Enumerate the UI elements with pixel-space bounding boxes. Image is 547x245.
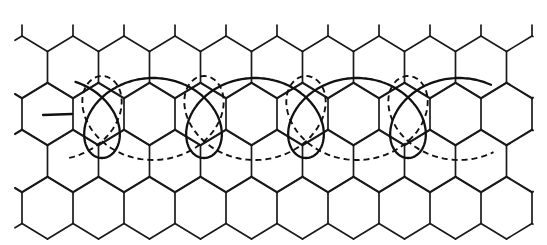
lattice-edge — [124, 83, 150, 99]
lattice-edge — [73, 177, 99, 193]
lattice-edge — [481, 130, 507, 146]
lattice-edge — [405, 177, 431, 193]
lattice-edge — [124, 130, 150, 146]
lattice-edge — [150, 224, 176, 240]
lattice-edge — [507, 36, 533, 52]
lattice-edge — [430, 177, 456, 193]
lattice-edge — [354, 130, 380, 146]
lattice-edge — [303, 36, 329, 52]
lattice-edge — [456, 83, 482, 99]
lattice-edge — [201, 177, 227, 193]
lattice-edge — [48, 224, 74, 240]
solid-curve-stub — [43, 114, 72, 115]
lattice-edge — [532, 224, 533, 225]
lattice-edge — [150, 36, 176, 52]
hexagonal-lattice-figure: Hexagonal (honeycomb) lattice with two o… — [0, 0, 547, 245]
lattice-edge — [124, 36, 150, 52]
lattice-edge — [226, 83, 252, 99]
lattice-edge — [430, 36, 456, 52]
lattice-edge — [124, 177, 150, 193]
lattice-edge — [532, 98, 533, 99]
lattice-edge — [277, 224, 303, 240]
lattice-edge — [430, 224, 456, 240]
lattice-edge — [252, 83, 278, 99]
lattice-edge — [354, 36, 380, 52]
lattice-edge — [73, 224, 99, 240]
lattice-edge — [456, 177, 482, 193]
lattice-edge — [150, 130, 176, 146]
lattice-edge — [456, 130, 482, 146]
lattice-edge — [379, 36, 405, 52]
lattice-edge — [328, 36, 354, 52]
lattice-edge — [99, 177, 125, 193]
lattice-edge — [150, 177, 176, 193]
lattice-edge — [507, 130, 533, 146]
lattice-edge — [252, 130, 278, 146]
lattice-edge — [379, 177, 405, 193]
lattice-edge — [48, 83, 74, 99]
lattice-edge — [277, 36, 303, 52]
lattice-edge — [226, 36, 252, 52]
lattice-edge — [15, 36, 22, 40]
lattice-edge — [328, 224, 354, 240]
lattice-edge — [252, 224, 278, 240]
lattice-edge — [405, 224, 431, 240]
lattice-edge — [175, 36, 201, 52]
figure-canvas — [0, 0, 547, 245]
lattice-edge — [226, 177, 252, 193]
lattice-edge — [430, 83, 456, 99]
lattice-edge — [73, 36, 99, 52]
lattice-edge — [354, 177, 380, 193]
lattice-edge — [22, 130, 48, 146]
lattice-edge — [48, 36, 74, 52]
lattice-edge — [430, 130, 456, 146]
lattice-edge — [175, 224, 201, 240]
lattice-edge — [481, 36, 507, 52]
lattice-edge — [175, 177, 201, 193]
lattice-edge — [201, 224, 227, 240]
lattice-edge — [303, 224, 329, 240]
lattice-edge — [456, 224, 482, 240]
lattice-edge — [48, 130, 74, 146]
lattice-edge — [201, 36, 227, 52]
hexagonal-lattice — [15, 25, 533, 239]
lattice-edge — [507, 224, 533, 240]
lattice-edge — [481, 177, 507, 193]
lattice-edge — [481, 83, 507, 99]
lattice-edge — [48, 177, 74, 193]
lattice-edge — [379, 224, 405, 240]
lattice-edge — [481, 224, 507, 240]
lattice-edge — [226, 130, 252, 146]
lattice-edge — [277, 177, 303, 193]
lattice-edge — [226, 224, 252, 240]
lattice-edge — [124, 224, 150, 240]
lattice-edge — [252, 36, 278, 52]
lattice-edge — [507, 83, 533, 99]
lattice-edge — [303, 177, 329, 193]
lattice-edge — [150, 83, 176, 99]
trajectory-curves — [43, 76, 494, 160]
lattice-edge — [328, 83, 354, 99]
lattice-edge — [532, 192, 533, 193]
lattice-edge — [22, 36, 48, 52]
lattice-edge — [99, 224, 125, 240]
lattice-edge — [354, 83, 380, 99]
lattice-edge — [15, 224, 22, 228]
lattice-edge — [22, 83, 48, 99]
lattice-edge — [22, 177, 48, 193]
lattice-edge — [456, 36, 482, 52]
lattice-edge — [22, 224, 48, 240]
lattice-edge — [99, 36, 125, 52]
lattice-edge — [328, 130, 354, 146]
lattice-edge — [328, 177, 354, 193]
lattice-edge — [507, 177, 533, 193]
lattice-edge — [405, 36, 431, 52]
lattice-edge — [354, 224, 380, 240]
lattice-edge — [252, 177, 278, 193]
